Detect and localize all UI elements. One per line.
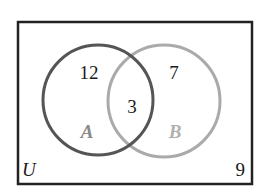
venn-diagram: 12 7 3 A B U 9 bbox=[0, 0, 261, 191]
universe-label: U bbox=[22, 159, 37, 180]
b-only-count: 7 bbox=[169, 62, 179, 83]
intersection-count: 3 bbox=[127, 96, 137, 117]
outside-count: 9 bbox=[236, 159, 246, 180]
a-only-count: 12 bbox=[80, 62, 99, 83]
set-a-label: A bbox=[80, 121, 94, 142]
set-b-label: B bbox=[168, 121, 182, 142]
